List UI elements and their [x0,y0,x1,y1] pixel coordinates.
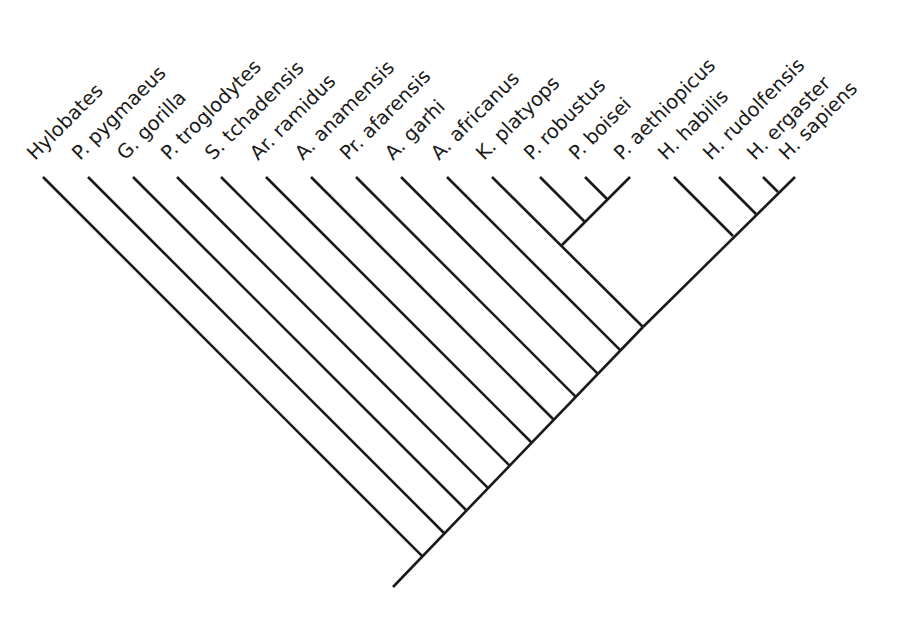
branch-p-pygmaeus [88,177,444,533]
branch-s-tchadensis [221,177,510,466]
branch-p-troglodytes [177,177,488,488]
branch-paranthropus-2 [585,177,607,199]
branch-a-anamensis [311,177,554,420]
taxon-labels: HylobatesP. pygmaeusG. gorillaP. troglod… [22,54,862,165]
homo-stem-branch [643,177,795,327]
branch-paranthropus-1 [540,177,585,222]
branch-g-gorilla [133,177,467,511]
branches [43,177,795,587]
backbone-branch [393,327,643,587]
branch-homo-0 [674,177,733,236]
branch-ar-ramidus [266,177,532,443]
branch-pr-afarensis [356,177,576,397]
cladogram: HylobatesP. pygmaeusG. gorillaP. troglod… [0,0,918,620]
branch-k-platyops [492,177,643,327]
branch-homo-1 [719,177,756,214]
branch-homo-2 [763,177,778,192]
branch-a-africanus [447,177,620,350]
